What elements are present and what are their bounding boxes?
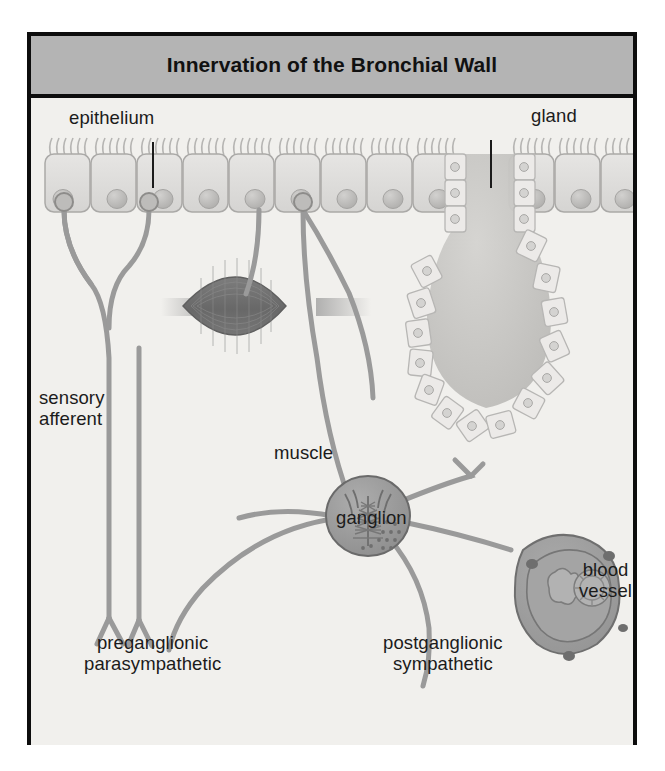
epithelial-cell bbox=[367, 138, 412, 212]
diagram-canvas: epithelium gland sensory afferent muscle… bbox=[31, 98, 633, 745]
label-muscle: muscle bbox=[274, 443, 333, 464]
epithelial-cell bbox=[601, 138, 633, 212]
label-epithelium: epithelium bbox=[69, 108, 154, 129]
epithelial-cell bbox=[183, 138, 228, 212]
label-blood-vessel: blood vessel bbox=[579, 560, 632, 601]
epithelial-cell bbox=[321, 138, 366, 212]
epithelial-cell bbox=[229, 138, 274, 212]
epithelial-cell bbox=[555, 138, 600, 212]
figure-page: Innervation of the Bronchial Wall bbox=[0, 0, 665, 771]
epithelial-cell bbox=[91, 138, 136, 212]
label-preganglionic-parasympathetic: preganglionic parasympathetic bbox=[84, 633, 221, 674]
label-postganglionic-sympathetic: postganglionic sympathetic bbox=[383, 633, 503, 674]
epithelium-layer bbox=[45, 138, 633, 212]
label-sensory-afferent: sensory afferent bbox=[39, 388, 104, 429]
label-ganglion: ganglion bbox=[336, 508, 407, 529]
figure-title: Innervation of the Bronchial Wall bbox=[167, 53, 497, 77]
figure-title-bar: Innervation of the Bronchial Wall bbox=[31, 36, 633, 98]
label-gland: gland bbox=[531, 106, 577, 127]
figure-frame: Innervation of the Bronchial Wall bbox=[27, 32, 637, 745]
